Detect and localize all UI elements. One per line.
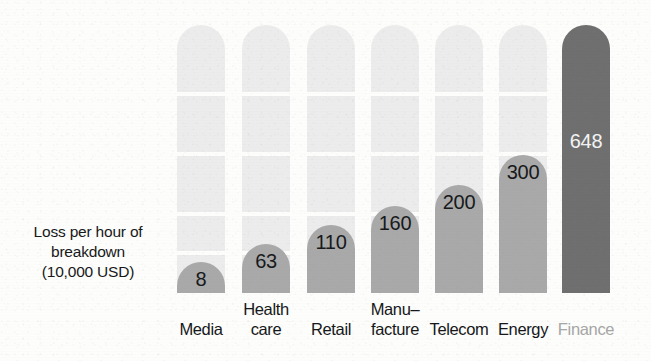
bar-group[interactable]: 63Healthcare: [242, 0, 290, 361]
bar-category-label-line: Telecom: [426, 320, 492, 339]
gridline-gap: [371, 92, 419, 96]
bar-value-label: 63: [242, 250, 290, 273]
gridline-gap: [307, 92, 355, 96]
bar-category-label: Retail: [298, 320, 364, 339]
y-axis-caption-line: Loss per hour of: [8, 222, 168, 242]
bar-category-label: Finance: [553, 320, 619, 339]
gridline-gap: [242, 92, 290, 96]
bar-category-label-line: care: [233, 320, 299, 339]
bar-category-label-line: Media: [168, 320, 234, 339]
bar-category-label: Telecom: [426, 320, 492, 339]
bar-category-label: Healthcare: [233, 300, 299, 339]
gridline-gap: [177, 251, 225, 255]
bar-value-label: 160: [371, 212, 419, 235]
bar-fill[interactable]: [562, 25, 610, 293]
bar-group[interactable]: 648Finance: [562, 0, 610, 361]
bar-category-label-line: Finance: [553, 320, 619, 339]
gridline-gap: [177, 92, 225, 96]
bar-value-label: 200: [435, 191, 483, 214]
gridline-gap: [435, 152, 483, 156]
bar-category-label-line: Manu–: [362, 300, 428, 319]
bar-group[interactable]: 110Retail: [307, 0, 355, 361]
gridline-gap: [242, 212, 290, 216]
gridline-gap: [177, 212, 225, 216]
gridline-gap: [242, 152, 290, 156]
y-axis-caption: Loss per hour ofbreakdown(10,000 USD): [8, 222, 168, 282]
bar-track: [177, 25, 225, 293]
bar-chart: 8Media63Healthcare110Retail160Manu–factu…: [0, 0, 651, 361]
bar-category-label-line: Retail: [298, 320, 364, 339]
bar-group[interactable]: 8Media: [177, 0, 225, 361]
bar-value-label: 8: [177, 268, 225, 291]
gridline-gap: [371, 152, 419, 156]
plot-area: 8Media63Healthcare110Retail160Manu–factu…: [0, 0, 651, 361]
y-axis-caption-line: (10,000 USD): [8, 262, 168, 282]
gridline-gap: [307, 152, 355, 156]
bar-category-label-line: Energy: [490, 320, 556, 339]
bar-value-label: 648: [562, 130, 610, 153]
gridline-gap: [499, 92, 547, 96]
bar-group[interactable]: 300Energy: [499, 0, 547, 361]
bar-group[interactable]: 160Manu–facture: [371, 0, 419, 361]
bar-category-label-line: Health: [233, 300, 299, 319]
gridline-gap: [307, 212, 355, 216]
bar-category-label-line: facture: [362, 320, 428, 339]
bar-value-label: 300: [499, 161, 547, 184]
bar-category-label: Media: [168, 320, 234, 339]
bar-category-label: Manu–facture: [362, 300, 428, 339]
bar-group[interactable]: 200Telecom: [435, 0, 483, 361]
gridline-gap: [177, 152, 225, 156]
gridline-gap: [435, 92, 483, 96]
bar-value-label: 110: [307, 231, 355, 254]
bar-category-label: Energy: [490, 320, 556, 339]
y-axis-caption-line: breakdown: [8, 242, 168, 262]
